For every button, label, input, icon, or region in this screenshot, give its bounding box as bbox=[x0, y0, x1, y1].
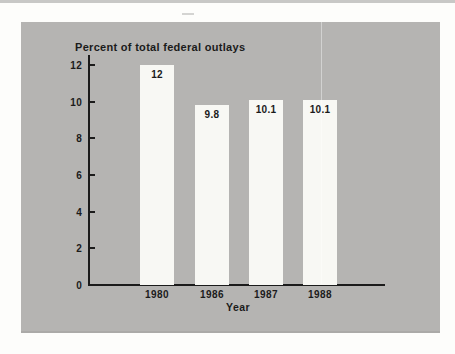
bar-1980: 12 bbox=[140, 65, 174, 285]
y-tick-mark bbox=[88, 64, 95, 66]
bar-value-label: 10.1 bbox=[303, 100, 337, 115]
page-top-edge-strip bbox=[0, 0, 455, 3]
y-tick-label: 4 bbox=[76, 207, 82, 218]
x-tick-label-1987: 1987 bbox=[254, 289, 278, 300]
y-tick-mark bbox=[88, 174, 95, 176]
y-tick-mark bbox=[88, 284, 95, 286]
y-tick-label: 8 bbox=[76, 133, 82, 144]
bar-value-label: 10.1 bbox=[249, 100, 283, 115]
bar-1986: 9.8 bbox=[195, 105, 229, 285]
chart-panel: Percent of total federal outlays 12 10 8… bbox=[21, 22, 440, 333]
scanned-page: Percent of total federal outlays 12 10 8… bbox=[0, 0, 455, 354]
x-tick-label-1986: 1986 bbox=[200, 289, 224, 300]
y-tick-label: 6 bbox=[76, 170, 82, 181]
scan-crease-artifact bbox=[321, 22, 322, 284]
scan-smudge-mark bbox=[182, 13, 194, 15]
x-axis-line bbox=[88, 284, 385, 286]
y-tick-mark bbox=[88, 211, 95, 213]
y-tick-label: 12 bbox=[70, 60, 82, 71]
x-axis-title: Year bbox=[226, 301, 250, 313]
x-tick-label-1988: 1988 bbox=[308, 289, 332, 300]
bar-1987: 10.1 bbox=[249, 100, 283, 285]
bar-value-label: 12 bbox=[140, 65, 174, 80]
y-tick-label: 2 bbox=[76, 243, 82, 254]
bar-value-label: 9.8 bbox=[195, 105, 229, 120]
y-tick-label: 10 bbox=[70, 97, 82, 108]
bar-1988: 10.1 bbox=[303, 100, 337, 285]
y-tick-mark bbox=[88, 247, 95, 249]
y-tick-label: 0 bbox=[76, 280, 82, 291]
y-tick-mark bbox=[88, 101, 95, 103]
y-axis-ticks: 12 10 8 6 4 2 bbox=[21, 65, 95, 285]
y-tick-mark bbox=[88, 137, 95, 139]
chart-title: Percent of total federal outlays bbox=[75, 41, 245, 53]
x-tick-label-1980: 1980 bbox=[145, 289, 169, 300]
